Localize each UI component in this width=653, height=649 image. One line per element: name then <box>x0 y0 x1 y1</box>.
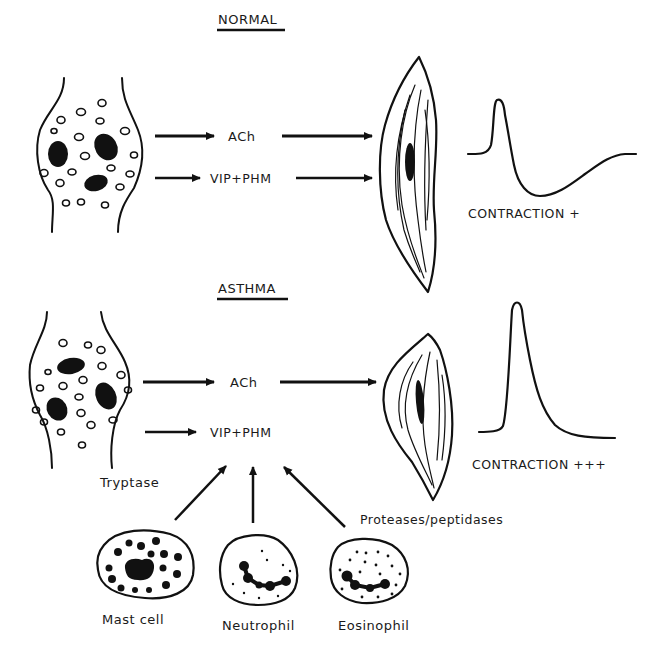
normal-mediator-ach: ACh <box>228 129 255 144</box>
normal-contraction-trace-icon <box>468 100 636 196</box>
neutrophil-label: Neutrophil <box>222 618 295 633</box>
asthma-title: ASTHMA <box>218 281 276 296</box>
asthma-panel: ASTHMA ACh VIP+PHM <box>29 281 615 633</box>
normal-panel: NORMAL ACh VIP+PHM <box>37 12 636 292</box>
mast-cell-icon <box>97 530 193 598</box>
asthma-contraction-trace-icon <box>479 303 615 439</box>
eosinophil-label: Eosinophil <box>338 618 409 633</box>
neutrophil-icon <box>220 535 297 605</box>
normal-mediator-vip-phm: VIP+PHM <box>210 171 271 186</box>
normal-response-label: CONTRACTION + <box>468 206 580 221</box>
normal-title: NORMAL <box>218 12 278 27</box>
mast-cell-label: Mast cell <box>102 612 164 627</box>
eosinophil-icon <box>330 539 408 603</box>
arrow-mast-cell-to-vip <box>175 466 226 520</box>
smooth-muscle-cell-icon <box>383 334 452 500</box>
asthma-mediator-ach: ACh <box>230 375 257 390</box>
asthma-neurotransmission-diagram: NORMAL ACh VIP+PHM <box>0 0 653 649</box>
nerve-terminal-icon <box>37 78 142 232</box>
nerve-terminal-icon <box>29 312 131 468</box>
asthma-mediator-vip-phm: VIP+PHM <box>210 425 271 440</box>
arrow-eosinophil-to-vip <box>284 467 345 527</box>
asthma-response-label: CONTRACTION +++ <box>472 457 606 472</box>
smooth-muscle-cell-icon <box>380 57 437 292</box>
tryptase-label: Tryptase <box>99 475 159 490</box>
proteases-peptidases-label: Proteases/peptidases <box>360 512 503 527</box>
